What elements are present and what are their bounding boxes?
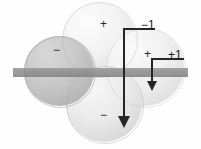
orbital-diagram-figure: + + − − −1 +1: [0, 0, 201, 149]
lobe-sign-right: +: [144, 48, 151, 60]
arrow-minus-one-head: [118, 116, 130, 128]
arrow-label-plus-one: +1: [168, 49, 182, 61]
arrow-plus-one-head: [147, 81, 157, 91]
lobe-sign-left: −: [53, 44, 60, 56]
arrow-minus-one-shaft: [123, 28, 125, 120]
horizontal-plane-bar: [13, 68, 188, 77]
arrow-label-minus-one: −1: [141, 19, 155, 31]
lobe-sign-bottom: −: [100, 109, 107, 121]
lobe-sign-top: +: [100, 18, 107, 30]
